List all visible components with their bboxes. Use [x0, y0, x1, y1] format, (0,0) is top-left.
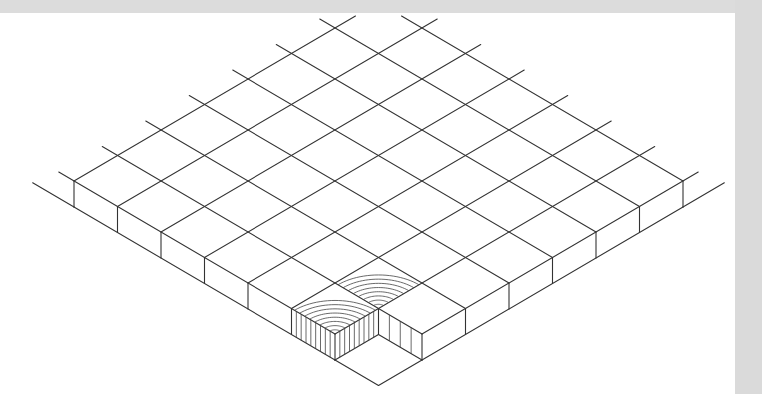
growth-ring: [305, 309, 366, 316]
growth-ring: [320, 321, 350, 325]
grid-line: [118, 19, 438, 206]
grid-line: [320, 19, 640, 206]
wood-block-floor-illustration: [0, 0, 762, 394]
base-floor-edge: [335, 360, 379, 386]
slab-bottom-edge: [33, 183, 74, 207]
slab-bottom-edge: [683, 183, 724, 207]
grid-line: [74, 16, 355, 181]
grid-line: [335, 147, 655, 334]
grid-line: [276, 45, 596, 232]
grid-line: [248, 96, 568, 283]
growth-ring: [353, 288, 404, 294]
grid-line: [161, 45, 481, 232]
grid-line: [402, 16, 683, 181]
floor-grid-lines: [59, 16, 698, 334]
grid-line: [292, 121, 612, 308]
grid-line: [422, 172, 698, 334]
slab-bottom-edge: [422, 207, 683, 360]
growth-ring: [373, 304, 383, 305]
inner-bottom-edge: [335, 335, 379, 361]
growth-ring: [330, 330, 340, 331]
growth-ring: [363, 296, 393, 300]
growth-ring: [368, 300, 388, 302]
grid-line: [59, 172, 335, 334]
grid-line: [233, 70, 553, 257]
base-floor-edge: [379, 360, 423, 386]
grid-line: [146, 121, 466, 308]
growth-ring: [348, 283, 409, 290]
grid-line: [102, 147, 422, 334]
grid-line: [189, 96, 509, 283]
grid-line: [205, 70, 525, 257]
growth-ring: [310, 313, 361, 319]
slab-bottom-edge: [74, 207, 335, 360]
end-grain-blocks: [295, 275, 419, 357]
growth-ring: [325, 326, 345, 328]
